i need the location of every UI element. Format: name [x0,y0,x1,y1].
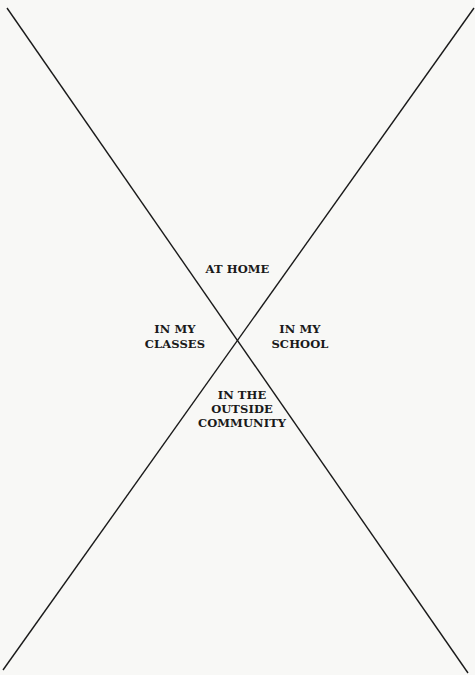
label-line: CLASSES [135,337,215,352]
label-line: SCHOOL [260,337,340,352]
quadrant-right-label: IN MY SCHOOL [260,322,340,352]
diagonal-line-top-right-to-bottom-left [3,8,474,670]
label-line: IN THE [192,388,292,402]
x-lines [0,0,475,675]
label-line: AT HOME [190,262,285,277]
label-line: IN MY [135,322,215,337]
label-line: COMMUNITY [192,416,292,430]
quadrant-left-label: IN MY CLASSES [135,322,215,352]
quadrant-bottom-label: IN THE OUTSIDE COMMUNITY [192,388,292,430]
label-line: IN MY [260,322,340,337]
label-line: OUTSIDE [192,402,292,416]
diagram-canvas: AT HOME IN MY CLASSES IN MY SCHOOL IN TH… [0,0,475,675]
quadrant-top-label: AT HOME [190,262,285,277]
